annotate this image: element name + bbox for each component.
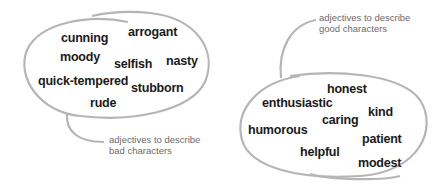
word-modest: modest — [358, 157, 401, 170]
word-moody: moody — [60, 51, 100, 64]
word-selfish: selfish — [114, 58, 152, 71]
word-honest: honest — [327, 83, 367, 96]
word-cunning: cunning — [61, 32, 108, 45]
word-arrogant: arrogant — [128, 26, 177, 39]
word-humorous: humorous — [248, 124, 308, 137]
word-patient: patient — [362, 133, 402, 146]
word-kind: kind — [368, 106, 393, 119]
bad-group-label: adjectives to describe bad characters — [109, 134, 200, 156]
good-bubble-tail — [281, 20, 316, 78]
word-caring: caring — [322, 114, 358, 127]
word-enthusiastic: enthusiastic — [262, 97, 333, 110]
word-quick-tempered: quick-tempered — [38, 75, 128, 88]
good-group-label: adjectives to describe good characters — [319, 12, 410, 34]
word-stubborn: stubborn — [131, 82, 184, 95]
word-nasty: nasty — [166, 55, 198, 68]
word-rude: rude — [90, 97, 116, 110]
word-helpful: helpful — [300, 146, 340, 159]
